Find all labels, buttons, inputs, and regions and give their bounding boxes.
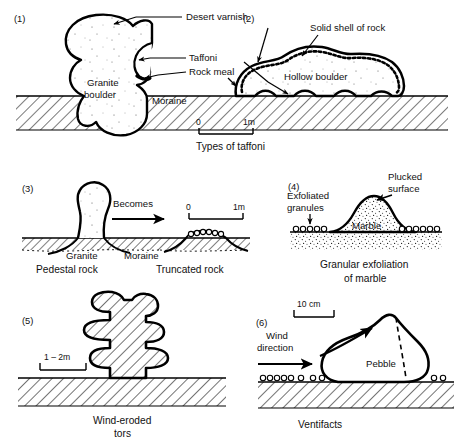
panel-1-number: (1) [14,13,25,24]
panel-2: Hollow boulder (2) Solid shell of rock [226,13,448,130]
panel-3-caption-left: Pedestal rock [36,264,99,275]
panel-6: (6) Pebble Wind [256,299,454,430]
scale-label-panel-6: 10 cm [297,299,320,309]
granite-label-panel-3: Granite [66,250,97,261]
panel-3-caption-right: Truncated rock [156,264,224,275]
plucked-surface-label-line2: surface [388,183,419,194]
panel-3-number: (3) [22,183,33,194]
scale-bar-panel-5: 1 – 2m [40,352,86,370]
scale-zero-taffoni: 0 [196,117,201,127]
panel-5-ground [18,378,226,406]
becomes-label: Becomes [113,198,153,209]
diagram-canvas: Granite boulder Moraine (1) Desert varni… [0,0,463,443]
panel-2-ground [226,96,448,130]
wind-direction-label-line2: direction [257,342,293,353]
hollow-boulder-label: Hollow boulder [284,71,348,82]
marble-substrate [290,232,442,250]
panel-5-number: (5) [22,315,33,326]
panel-5: (5) 1 – 2m Wind-eroded tors [18,292,226,439]
panel-4: (4) Marble Exfoliated granules [287,171,442,284]
exfoliated-granules-label-line1: Exfoliated [287,190,329,201]
panel-5-caption-line2: tors [114,428,131,439]
scale-bar-panel-3: 0 1m [186,202,245,219]
desert-varnish-leader-panel-2 [258,28,268,62]
granite-boulder [66,15,152,136]
scale-max-panel-3: 1m [233,202,245,212]
scale-label-panel-5: 1 – 2m [44,352,70,362]
scale-max-taffoni: 1m [243,117,255,127]
plucked-surface-label-line1: Plucked [388,171,422,182]
moraine-label-panel-3: Moraine [124,250,159,261]
scale-bar-panel-6: 10 cm [294,299,334,317]
rock-meal-leader-panel-2 [228,78,236,86]
granite-boulder-label-line1: Granite [87,77,118,88]
panel-6-caption: Ventifacts [298,419,342,430]
panel-4-caption-line1: Granular exfoliation [320,259,408,270]
marble-label: Marble [352,220,381,231]
desert-varnish-label: Desert varnish [186,11,248,22]
scale-zero-panel-3: 0 [186,202,191,212]
wind-direction-label-line1: Wind [266,330,288,341]
solid-shell-label: Solid shell of rock [310,22,385,33]
panel-1-caption: Types of taffoni [196,141,265,152]
rock-meal-label: Rock meal [189,66,234,77]
panel-5-caption-line1: Wind-eroded [93,415,152,426]
panel-4-caption-line2: of marble [344,273,387,284]
granite-boulder-label-line2: boulder [84,89,117,100]
panel-1: Granite boulder Moraine (1) Desert varni… [14,11,248,135]
panel-3: (3) Granite Becomes [22,182,250,275]
panel-6-number: (6) [256,317,267,328]
exfoliated-granules-label-line2: granules [287,202,324,213]
pebble-label: Pebble [366,358,396,369]
taffoni-label: Taffoni [189,52,217,63]
moraine-label-panel-1: Moraine [152,95,187,106]
panel-6-ground [258,382,454,408]
panel-2-number: (2) [243,13,254,24]
wind-eroded-tor [84,292,168,378]
figure-root: Granite boulder Moraine (1) Desert varni… [0,0,463,443]
